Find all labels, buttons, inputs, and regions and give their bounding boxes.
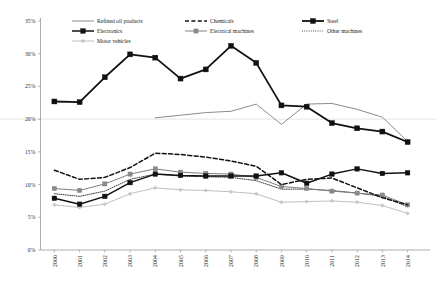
data-point-marker: [52, 196, 57, 201]
y-axis-tick-label: 20%: [25, 116, 36, 122]
data-point-marker: [279, 184, 283, 188]
x-axis-tick-label: 2011: [329, 255, 335, 267]
data-point-marker: [153, 55, 158, 60]
legend-label: Chemicals: [210, 18, 234, 24]
data-point-marker: [304, 181, 309, 186]
data-point-marker: [355, 200, 359, 204]
legend-swatch-marker: [194, 29, 198, 33]
data-point-marker: [128, 52, 133, 57]
x-axis-tick-label: 2000: [52, 255, 58, 267]
legend-item-motor-vehicles[interactable]: Motor vehicles: [72, 38, 131, 44]
series-line: [54, 153, 407, 205]
data-point-marker: [229, 190, 233, 194]
data-point-marker: [254, 192, 258, 196]
data-point-marker: [128, 192, 132, 196]
chart-container: 0%5%10%15%20%25%30%35% 20002001200220032…: [0, 0, 436, 287]
data-point-marker: [103, 194, 108, 199]
data-series-group: [52, 43, 410, 215]
x-axis-tick-label: 2007: [228, 255, 234, 267]
data-point-marker: [330, 189, 334, 193]
line-chart: 0%5%10%15%20%25%30%35% 20002001200220032…: [0, 0, 436, 287]
legend-item-chemicals[interactable]: Chemicals: [185, 18, 234, 24]
legend-item-electronics[interactable]: Electronics: [72, 28, 122, 34]
data-point-marker: [405, 140, 410, 145]
x-axis-tick-label: 2013: [380, 255, 386, 267]
legend-label: Motor vehicles: [97, 38, 131, 44]
data-point-marker: [153, 186, 157, 190]
x-axis-tick-label: 2003: [127, 255, 133, 267]
y-axis-tick-label: 35%: [25, 18, 36, 24]
data-point-marker: [355, 126, 360, 131]
y-axis-tick-label: 30%: [25, 51, 36, 57]
data-point-marker: [228, 43, 233, 48]
legend-label: Electronics: [97, 28, 122, 34]
data-point-marker: [204, 189, 208, 193]
chart-legend: Refined oil productsChemicalsSteelElectr…: [72, 18, 362, 44]
data-point-marker: [77, 100, 82, 105]
data-point-marker: [305, 200, 309, 204]
legend-item-electrical-machines[interactable]: Electrical machines: [185, 28, 254, 34]
y-axis-tick-label: 10%: [25, 182, 36, 188]
y-axis-tick-label: 5%: [28, 214, 36, 220]
x-axis-tick-label: 2005: [178, 255, 184, 267]
data-point-marker: [305, 186, 309, 190]
x-axis-tick-label: 2012: [354, 255, 360, 267]
data-point-marker: [128, 180, 133, 185]
x-axis-tick-labels: 2000200120022003200420052006200720082009…: [52, 255, 411, 267]
data-point-marker: [380, 171, 385, 176]
data-point-marker: [279, 103, 284, 108]
data-point-marker: [330, 172, 335, 177]
data-point-marker: [380, 204, 384, 208]
legend-label: Electrical machines: [210, 28, 254, 34]
data-point-marker: [405, 170, 410, 175]
data-point-marker: [355, 167, 360, 172]
data-point-marker: [179, 188, 183, 192]
data-point-marker: [52, 99, 57, 104]
series-steel: [52, 43, 410, 144]
y-axis-tick-label: 0%: [28, 247, 36, 253]
legend-item-steel[interactable]: Steel: [302, 18, 339, 24]
y-axis-tick-labels: 0%5%10%15%20%25%30%35%: [25, 18, 36, 253]
data-point-marker: [406, 211, 410, 215]
data-point-marker: [380, 129, 385, 134]
data-point-marker: [103, 182, 107, 186]
data-point-marker: [78, 188, 82, 192]
legend-swatch-marker: [81, 39, 85, 43]
data-point-marker: [153, 172, 158, 177]
data-point-marker: [380, 193, 384, 197]
data-point-marker: [254, 60, 259, 65]
x-axis-tick-label: 2009: [279, 255, 285, 267]
data-point-marker: [329, 121, 334, 126]
x-axis-tick-label: 2006: [203, 255, 209, 267]
data-point-marker: [52, 186, 56, 190]
legend-label: Steel: [327, 18, 339, 24]
data-point-marker: [279, 170, 284, 175]
series-line: [155, 103, 407, 141]
legend-swatch-marker: [311, 19, 316, 24]
x-axis-tick-label: 2002: [102, 255, 108, 267]
x-axis-tick-label: 2001: [77, 255, 83, 267]
data-point-marker: [330, 199, 334, 203]
data-point-marker: [178, 173, 183, 178]
legend-label: Refined oil products: [97, 18, 143, 24]
series-refined-oil-products: [155, 103, 407, 141]
x-axis-tick-label: 2014: [405, 255, 411, 267]
data-point-marker: [203, 67, 208, 72]
axes: [38, 18, 430, 253]
data-point-marker: [254, 174, 259, 179]
data-point-marker: [153, 167, 157, 171]
legend-item-other-machines[interactable]: Other machines: [302, 28, 362, 34]
data-point-marker: [304, 104, 309, 109]
data-point-marker: [280, 200, 284, 204]
x-axis-tick-label: 2010: [304, 255, 310, 267]
data-point-marker: [355, 191, 359, 195]
data-point-marker: [203, 174, 208, 179]
x-axis-tick-label: 2008: [253, 255, 259, 267]
x-axis-tick-label: 2004: [152, 255, 158, 267]
data-point-marker: [52, 203, 56, 207]
legend-label: Other machines: [327, 28, 362, 34]
data-point-marker: [103, 202, 107, 206]
legend-item-refined-oil-products[interactable]: Refined oil products: [72, 18, 143, 24]
series-electrical-machines: [52, 167, 409, 207]
data-point-marker: [77, 202, 82, 207]
